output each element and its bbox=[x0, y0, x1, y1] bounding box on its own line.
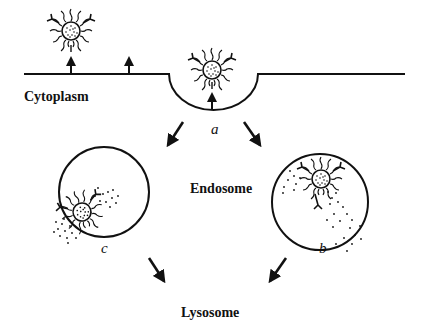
endosome-label: Endosome bbox=[190, 181, 252, 197]
receptor-icons bbox=[71, 58, 212, 110]
pathway-c-label: c bbox=[101, 240, 108, 257]
endosome-b bbox=[272, 154, 368, 250]
virus-particle-endosome-b bbox=[297, 157, 345, 199]
lysosome-label: Lysosome bbox=[181, 305, 239, 321]
pathway-a-label: a bbox=[211, 121, 219, 138]
diagram-graphics bbox=[0, 0, 423, 333]
pathway-b-label: b bbox=[319, 240, 327, 257]
endocytosis-diagram: Cytoplasm Endosome Lysosome a b c bbox=[0, 0, 423, 333]
cytoplasm-label: Cytoplasm bbox=[24, 89, 89, 105]
virus-particle-outside bbox=[47, 9, 95, 51]
pathway-arrows bbox=[149, 122, 286, 281]
